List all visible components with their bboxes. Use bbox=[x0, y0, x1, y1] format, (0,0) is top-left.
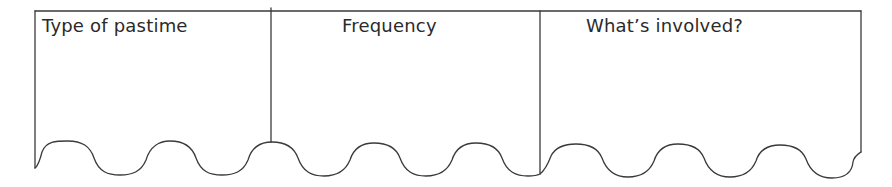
cell-frequency[interactable] bbox=[272, 11, 539, 176]
cell-whats-involved[interactable] bbox=[541, 11, 860, 176]
cell-type-of-pastime[interactable] bbox=[36, 11, 270, 176]
